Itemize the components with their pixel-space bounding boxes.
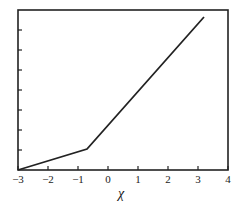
x-tick-label: 1 (135, 173, 141, 185)
x-tick-label: −3 (12, 173, 24, 185)
x-tick-label: 2 (165, 173, 171, 185)
data-line (18, 17, 204, 170)
x-tick-label: 0 (105, 173, 111, 185)
x-tick-label: −1 (72, 173, 84, 185)
x-tick-label: −2 (42, 173, 54, 185)
x-tick-label: 4 (225, 173, 231, 185)
x-axis-tick-labels: −3−2−101234 (12, 173, 231, 185)
plot-frame (18, 10, 228, 170)
chart: −3−2−101234 χ (0, 0, 241, 209)
x-axis-title: χ (116, 186, 125, 201)
x-tick-label: 3 (195, 173, 201, 185)
